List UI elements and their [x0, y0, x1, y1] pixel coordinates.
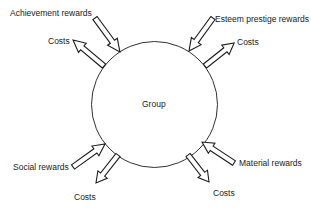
group-rewards-costs-diagram: Achievement rewards Costs Esteem prestig…: [0, 0, 311, 208]
esteem-rewards-arrow-icon: [184, 14, 218, 54]
cost-top-right-arrow-icon: [201, 38, 238, 71]
cost-bottom-left-label: Costs: [74, 193, 96, 202]
social-rewards-arrow-icon: [69, 139, 108, 172]
achievement-rewards-arrow-icon: [90, 14, 125, 55]
cost-bottom-right-label: Costs: [213, 189, 235, 198]
social-rewards-label: Social rewards: [13, 163, 69, 172]
cost-bottom-left-arrow-icon: [91, 151, 122, 186]
esteem-prestige-rewards-label: Esteem prestige rewards: [215, 15, 309, 24]
group-label: Group: [142, 100, 166, 109]
cost-top-left-label: Costs: [48, 37, 70, 46]
achievement-rewards-label: Achievement rewards: [10, 9, 92, 18]
cost-top-right-label: Costs: [237, 38, 259, 47]
cost-top-left-arrow-icon: [69, 35, 108, 70]
cost-bottom-right-arrow-icon: [183, 151, 213, 185]
material-rewards-label: Material rewards: [239, 159, 302, 168]
